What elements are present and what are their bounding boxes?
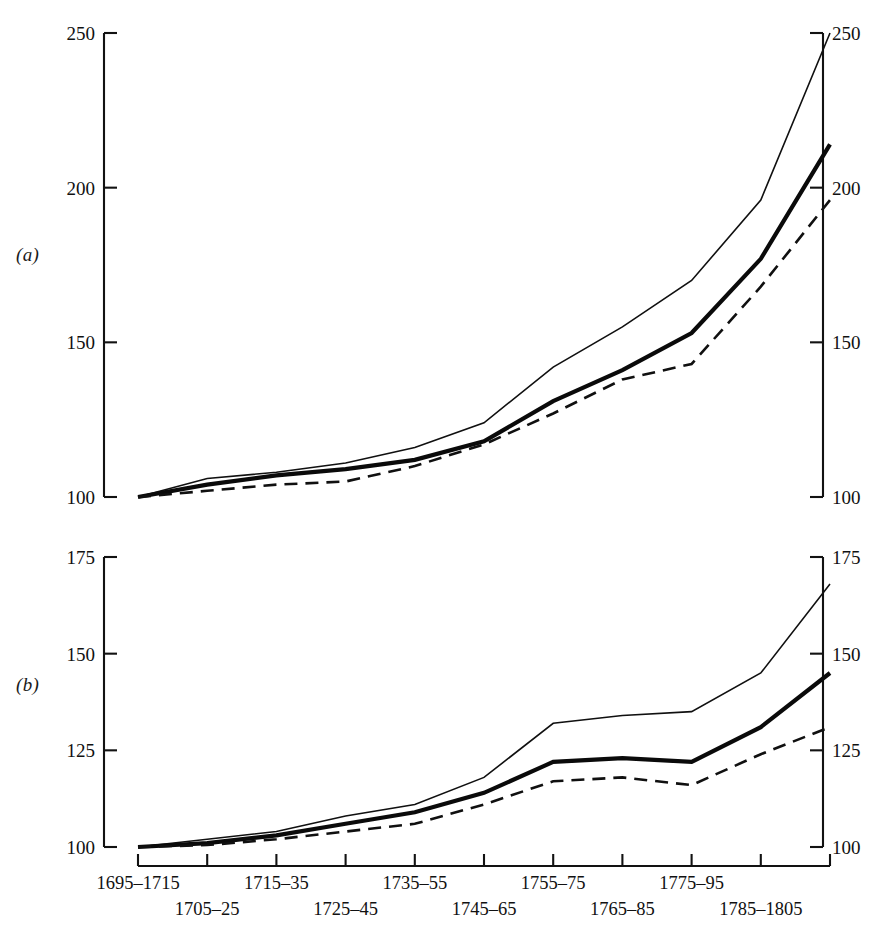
- figure-root: (a) (b) 10010015015020020025025010010012…: [0, 0, 890, 926]
- x-tick-label-top-1: 1715–35: [244, 874, 309, 893]
- y-tick-label-b-left-125: 125: [67, 741, 96, 760]
- y-tick-label-a-left-100: 100: [67, 488, 96, 507]
- y-tick-label-a-left-250: 250: [67, 24, 96, 43]
- x-tick-label-top-3: 1755–75: [521, 874, 586, 893]
- y-tick-label-a-right-250: 250: [832, 24, 861, 43]
- series-b-thick-solid: [138, 673, 830, 847]
- y-tick-label-b-right-175: 175: [832, 548, 861, 567]
- y-tick-label-a-right-100: 100: [832, 488, 861, 507]
- x-tick-label-top-4: 1775–95: [659, 874, 724, 893]
- y-tick-label-b-left-150: 150: [67, 644, 96, 663]
- y-tick-label-a-right-150: 150: [832, 333, 861, 352]
- x-tick-label-bottom-4: 1785–1805: [719, 900, 802, 919]
- y-tick-label-b-left-100: 100: [67, 838, 96, 857]
- chart-panel-b: [0, 0, 890, 926]
- x-tick-label-bottom-1: 1725–45: [313, 900, 378, 919]
- y-tick-label-b-right-100: 100: [832, 838, 861, 857]
- y-tick-label-b-left-175: 175: [67, 548, 96, 567]
- x-tick-label-bottom-3: 1765–85: [590, 900, 655, 919]
- y-tick-label-a-left-150: 150: [67, 333, 96, 352]
- x-tick-label-bottom-2: 1745–65: [452, 900, 517, 919]
- y-tick-label-a-right-200: 200: [832, 178, 861, 197]
- y-tick-label-a-left-200: 200: [67, 178, 96, 197]
- x-tick-label-top-2: 1735–55: [382, 874, 447, 893]
- series-b-thin-solid: [138, 584, 830, 847]
- x-tick-label-top-0: 1695–1715: [96, 874, 179, 893]
- y-tick-label-b-right-125: 125: [832, 741, 861, 760]
- y-tick-label-b-right-150: 150: [832, 644, 861, 663]
- x-tick-label-bottom-0: 1705–25: [175, 900, 240, 919]
